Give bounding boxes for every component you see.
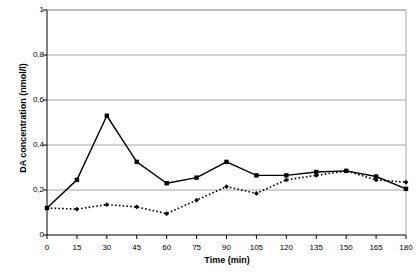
- data-point-marker: [404, 180, 409, 185]
- data-point-marker: [164, 181, 168, 185]
- data-point-marker: [194, 175, 198, 179]
- axis-lines: [43, 10, 406, 239]
- plot-area: [0, 0, 416, 273]
- data-series-layer: [45, 114, 409, 216]
- data-point-marker: [254, 191, 259, 196]
- series-dotted-series: [45, 168, 409, 216]
- data-point-marker: [404, 187, 408, 191]
- series-solid-series: [45, 114, 408, 211]
- data-point-marker: [254, 173, 258, 177]
- data-point-marker: [284, 173, 288, 177]
- data-point-marker: [134, 204, 139, 209]
- data-point-marker: [75, 178, 79, 182]
- data-point-marker: [224, 160, 228, 164]
- data-point-marker: [194, 198, 199, 203]
- data-point-marker: [104, 202, 109, 207]
- data-point-marker: [224, 184, 229, 189]
- data-point-marker: [75, 207, 80, 212]
- data-point-marker: [164, 211, 169, 216]
- data-point-marker: [105, 114, 109, 118]
- data-point-marker: [284, 177, 289, 182]
- series-line: [47, 171, 406, 214]
- chart-container: DA concentration (nmol/l) Time (min) 00,…: [0, 0, 416, 273]
- data-point-marker: [135, 160, 139, 164]
